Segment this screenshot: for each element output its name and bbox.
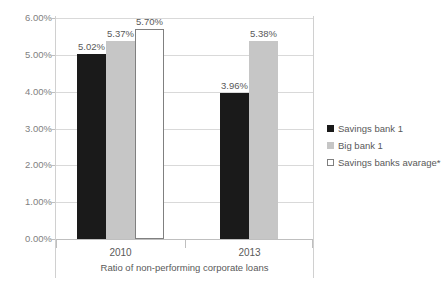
- legend-item: Big bank 1: [327, 137, 439, 154]
- bar-value-label: 5.70%: [129, 16, 170, 27]
- chart-legend: Savings bank 1Big bank 1Savings banks av…: [327, 120, 439, 171]
- category-label: 2013: [185, 247, 314, 259]
- bar-value-label: 5.38%: [243, 28, 284, 39]
- legend-swatch-icon: [327, 142, 334, 149]
- legend-swatch-icon: [327, 125, 334, 132]
- y-axis-tick-label: 3.00%: [0, 124, 52, 134]
- bar-chart: 0.00%1.00%2.00%3.00%4.00%5.00%6.00% 5.02…: [0, 0, 441, 286]
- y-axis-tick-label: 2.00%: [0, 160, 52, 170]
- plot-area: 5.02%5.37%5.70%3.96%5.38%: [56, 18, 313, 239]
- y-axis-tick-label: 6.00%: [0, 13, 52, 23]
- legend-label: Big bank 1: [338, 140, 383, 151]
- x-axis-title: Ratio of non-performing corporate loans: [56, 262, 313, 274]
- legend-label: Savings banks avarage*: [338, 157, 440, 168]
- y-axis-tick-mark: [50, 18, 55, 19]
- bar: [106, 41, 135, 239]
- gridline: [56, 18, 313, 19]
- bar: [135, 29, 164, 239]
- bar: [77, 54, 106, 239]
- bar: [249, 41, 278, 239]
- y-axis-tick-label: 4.00%: [0, 87, 52, 97]
- y-axis-tick-mark: [50, 55, 55, 56]
- bar: [220, 93, 249, 239]
- y-axis-tick-mark: [50, 92, 55, 93]
- y-axis: 0.00%1.00%2.00%3.00%4.00%5.00%6.00%: [0, 18, 52, 239]
- legend-label: Savings bank 1: [338, 123, 403, 134]
- y-axis-tick-label: 5.00%: [0, 50, 52, 60]
- category-label: 2010: [56, 247, 185, 259]
- y-axis-tick-mark: [50, 165, 55, 166]
- category-axis: 20102013: [56, 239, 313, 261]
- y-axis-tick-label: 0.00%: [0, 234, 52, 244]
- legend-swatch-icon: [327, 159, 334, 166]
- y-axis-tick-label: 1.00%: [0, 197, 52, 207]
- chart-frame-right-border: [313, 16, 314, 278]
- y-axis-tick-mark: [50, 129, 55, 130]
- legend-item: Savings banks avarage*: [327, 154, 439, 171]
- y-axis-tick-mark: [50, 202, 55, 203]
- y-axis-tick-mark: [50, 239, 55, 240]
- category-tick-mark: [312, 239, 313, 248]
- legend-item: Savings bank 1: [327, 120, 439, 137]
